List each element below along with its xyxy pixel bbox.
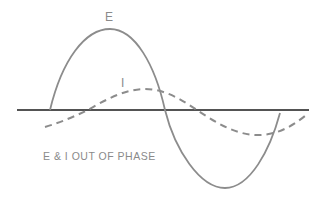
phase-diagram — [0, 0, 330, 202]
current-label: I — [121, 76, 125, 90]
current-wave-i — [45, 89, 305, 135]
voltage-wave-e — [50, 29, 280, 188]
voltage-label: E — [105, 10, 114, 24]
diagram-caption: E & I OUT OF PHASE — [43, 150, 156, 162]
